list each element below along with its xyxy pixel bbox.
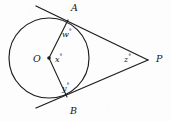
point-label-b: B bbox=[70, 106, 77, 116]
figure-canvas bbox=[0, 0, 171, 122]
angle-label-x: x° bbox=[55, 53, 63, 64]
angle-label-y: y° bbox=[62, 82, 70, 93]
point-label-a: A bbox=[71, 3, 78, 13]
angle-symbol-w: w bbox=[62, 30, 69, 39]
degree-sign-z: ° bbox=[128, 52, 131, 59]
degree-sign-y: ° bbox=[67, 81, 70, 88]
geometry-figure: O A B P w° x° y° z° bbox=[0, 0, 171, 122]
angle-label-z: z° bbox=[124, 53, 131, 64]
point-label-p: P bbox=[156, 54, 162, 64]
point-label-o: O bbox=[33, 54, 41, 64]
degree-sign-w: ° bbox=[69, 27, 72, 34]
angle-label-w: w° bbox=[62, 28, 72, 39]
degree-sign-x: ° bbox=[60, 52, 63, 59]
center-point-dot bbox=[47, 56, 51, 60]
